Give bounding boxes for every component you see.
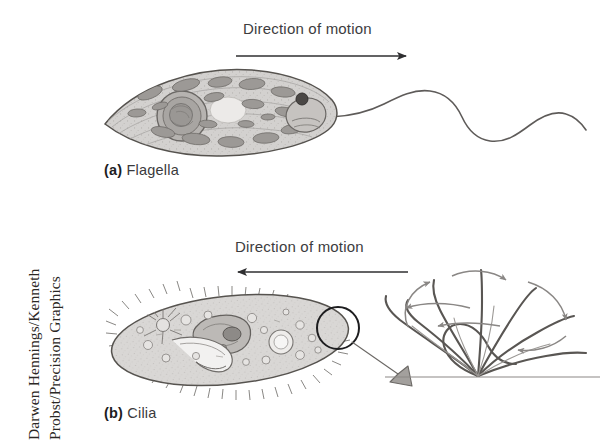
panel-label-a: (a) Flagella xyxy=(104,162,179,178)
credit-line-1: Darwen Hennings/Kenneth xyxy=(26,269,42,440)
flagellum xyxy=(331,91,586,142)
flagellate-cell-body xyxy=(105,69,337,156)
beat-arrow-icon-6 xyxy=(406,304,470,309)
pellicle-striations xyxy=(108,77,329,148)
eyespot xyxy=(296,93,308,105)
food-vacuoles xyxy=(137,309,322,365)
cilium-power-1 xyxy=(478,270,482,376)
callout-pointer-icon xyxy=(352,342,412,386)
direction-caption-flagella: Direction of motion xyxy=(243,20,372,37)
panel-b-artwork xyxy=(106,270,600,400)
figure-root: Darwen Hennings/Kenneth Probst/Precision… xyxy=(0,0,606,448)
reservoir xyxy=(283,94,329,136)
beat-arrow-icon-1 xyxy=(405,282,430,327)
panel-a-artwork xyxy=(105,56,586,156)
macronucleus xyxy=(193,315,250,354)
credit-block: Darwen Hennings/Kenneth Probst/Precision… xyxy=(0,0,72,448)
figure-artwork xyxy=(0,0,606,448)
trichocysts xyxy=(156,320,280,357)
beat-arrow-icon-4 xyxy=(518,336,566,350)
panel-label-b: (b) Cilia xyxy=(104,405,157,421)
cilium-recovery-1 xyxy=(386,296,478,376)
panel-b-tag: (b) xyxy=(104,405,123,421)
ciliate-cell-body xyxy=(107,284,353,396)
callout-circle-icon xyxy=(317,307,359,349)
cilium-power-3 xyxy=(478,316,574,376)
contractile-vacuole-posterior xyxy=(269,330,293,354)
contractile-vacuole-anterior xyxy=(144,306,182,344)
beat-arrow-group xyxy=(405,271,566,350)
beat-arrow-icon-5 xyxy=(438,323,500,326)
panel-a-tag: (a) xyxy=(104,162,122,178)
cilium-recovery-3 xyxy=(433,280,478,376)
beat-arrow-icon-2 xyxy=(452,271,506,280)
credit-line-2: Probst/Precision Graphics xyxy=(47,276,63,440)
panel-b-title: Cilia xyxy=(127,405,156,421)
micronucleus-dot xyxy=(219,344,226,351)
cilia-fringe xyxy=(106,281,350,400)
direction-caption-cilia: Direction of motion xyxy=(235,238,364,255)
nucleus xyxy=(157,91,207,141)
micronucleus xyxy=(223,327,241,341)
oral-groove xyxy=(172,337,232,372)
cilia-beat-detail xyxy=(385,270,600,377)
cilium-power-4 xyxy=(478,353,586,376)
cilium-recovery-2 xyxy=(406,300,478,376)
beat-arrow-icon-3 xyxy=(528,282,566,320)
cilium-hook xyxy=(443,324,516,376)
cilium-power-2 xyxy=(478,288,536,376)
panel-a-title: Flagella xyxy=(127,162,179,178)
storage-body xyxy=(210,97,246,123)
organelles xyxy=(128,75,304,147)
